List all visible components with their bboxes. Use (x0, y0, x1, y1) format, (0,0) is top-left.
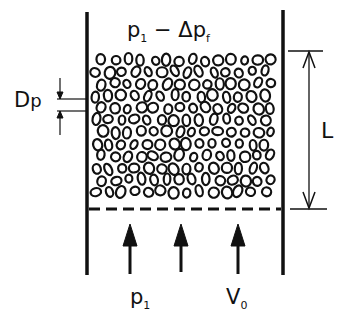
packed-particles (89, 53, 277, 200)
flow-arrow-icon (231, 224, 245, 274)
particle (136, 151, 147, 163)
particle (188, 103, 198, 114)
particle (265, 103, 274, 115)
particle (174, 57, 184, 67)
particle (187, 127, 197, 138)
particle (168, 187, 179, 199)
particle (253, 76, 264, 89)
particle (221, 185, 234, 199)
particle (239, 151, 251, 163)
particle (130, 186, 141, 196)
particle (249, 140, 257, 151)
particle (235, 163, 243, 175)
particle (142, 186, 154, 198)
particle-diameter-label: Dp (14, 90, 42, 111)
particle (158, 115, 166, 125)
particle (137, 126, 146, 136)
particle (245, 90, 258, 104)
particle (148, 126, 159, 137)
particle (149, 174, 159, 186)
particle (226, 103, 236, 114)
particle (154, 138, 166, 151)
particle (248, 66, 256, 75)
flow-arrows (123, 224, 245, 274)
particle (213, 55, 224, 66)
particle (195, 162, 204, 172)
particle (208, 139, 215, 148)
velocity-label: V0 (226, 287, 247, 308)
particle (163, 173, 170, 185)
particle (96, 175, 107, 187)
particle (128, 113, 141, 125)
particle (89, 67, 101, 79)
particle (110, 151, 122, 163)
particle (264, 53, 276, 65)
particle (130, 65, 142, 79)
particle (214, 174, 227, 187)
particle (209, 67, 219, 79)
particle (206, 88, 220, 102)
particle (151, 56, 161, 66)
particle (241, 56, 249, 65)
particle (207, 161, 220, 175)
particle (231, 184, 244, 199)
label-p: p (127, 18, 140, 42)
particle (111, 56, 120, 65)
particle (168, 115, 179, 126)
particle (252, 101, 266, 116)
particle (252, 55, 263, 65)
label-p: p (130, 285, 143, 309)
particle (164, 104, 173, 115)
particle (259, 140, 268, 151)
particle (157, 67, 168, 77)
particle (215, 150, 226, 161)
particle (116, 67, 127, 77)
label-D: D (14, 88, 30, 112)
particle (96, 79, 107, 92)
particle (222, 91, 231, 103)
particle (96, 149, 105, 160)
particle (143, 66, 153, 77)
particle (92, 112, 102, 125)
particle (142, 114, 152, 125)
particle (103, 89, 112, 101)
dimension-Dp (57, 78, 88, 135)
particle (182, 66, 193, 79)
particle (110, 175, 123, 186)
particle (146, 150, 159, 162)
particle (104, 139, 113, 151)
particle (174, 174, 185, 186)
particle (260, 65, 269, 77)
particle (233, 67, 244, 78)
particle (146, 101, 160, 114)
particle (186, 173, 196, 186)
particle (237, 78, 251, 92)
particle (123, 104, 132, 114)
particle (135, 101, 149, 114)
label-sub-1: 1 (143, 299, 150, 312)
packed-bed-diagram (0, 0, 340, 324)
particle (226, 54, 236, 65)
particle (223, 113, 231, 124)
particle (129, 89, 140, 101)
particle (194, 138, 204, 148)
particle (261, 186, 273, 198)
particle (115, 139, 126, 151)
particle (123, 127, 132, 139)
particle (203, 80, 213, 90)
particle (259, 162, 270, 175)
particle (148, 79, 158, 90)
particle (252, 176, 263, 187)
particle (182, 114, 190, 126)
particle (227, 150, 235, 161)
particle (265, 174, 276, 185)
particle (188, 53, 198, 65)
particle (137, 172, 147, 185)
top-pressure-label: p1 − Δpf (127, 20, 210, 41)
particle (122, 79, 132, 90)
particle (97, 124, 110, 138)
flow-arrow-icon (123, 224, 137, 274)
particle (175, 125, 186, 138)
particle (92, 163, 103, 175)
particle (175, 103, 184, 111)
